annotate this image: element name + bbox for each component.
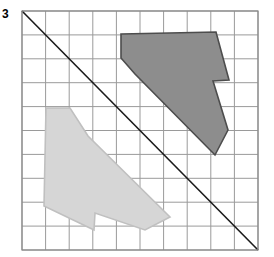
dark-polygon <box>121 32 229 155</box>
grid-canvas <box>0 0 274 257</box>
light-polygon <box>44 108 170 230</box>
reflection-figure: 3 <box>0 0 274 257</box>
